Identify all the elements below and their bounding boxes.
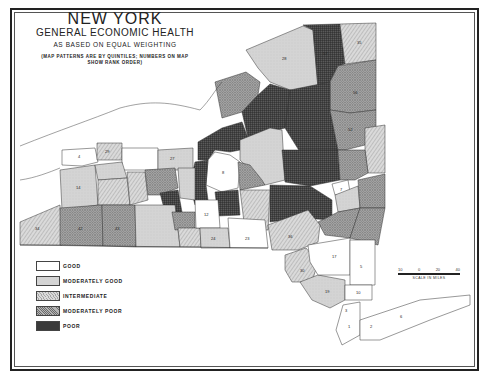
rank-label: 19 bbox=[325, 289, 330, 294]
swatch-good bbox=[36, 261, 60, 271]
county-wyoming[interactable] bbox=[98, 178, 130, 205]
county-essex[interactable] bbox=[330, 60, 376, 113]
scale-ticks: 10 0 20 40 bbox=[398, 267, 460, 272]
legend: GOOD MODERATELY GOOD INTERMEDIATE MODERA… bbox=[36, 258, 123, 333]
legend-label: POOR bbox=[63, 323, 80, 329]
county-long-island[interactable] bbox=[360, 295, 470, 340]
rank-label: 12 bbox=[204, 212, 209, 217]
legend-label: GOOD bbox=[63, 263, 81, 269]
legend-label: INTERMEDIATE bbox=[63, 293, 107, 299]
legend-label: MODERATELY GOOD bbox=[63, 278, 123, 284]
scale-tick: 20 bbox=[436, 267, 440, 272]
county-seneca[interactable] bbox=[178, 168, 195, 200]
lake-erie-shoreline bbox=[20, 168, 60, 180]
rank-label: 24 bbox=[211, 236, 216, 241]
county-fulton-montgomery[interactable] bbox=[282, 150, 340, 186]
county-niagara-orleans[interactable] bbox=[97, 143, 122, 160]
county-chemung[interactable] bbox=[172, 212, 195, 230]
title-block: NEW YORK GENERAL ECONOMIC HEALTH AS BASE… bbox=[0, 10, 230, 65]
legend-item-moderately-good: MODERATELY GOOD bbox=[36, 273, 123, 288]
title-note: (MAP PATTERNS ARE BY QUINTILES; NUMBERS … bbox=[0, 54, 230, 65]
rank-label: 23 bbox=[245, 236, 250, 241]
rank-label: 28 bbox=[282, 56, 287, 61]
rank-label: 29 bbox=[105, 149, 110, 154]
rank-label: 17 bbox=[332, 254, 337, 259]
swatch-poor bbox=[36, 321, 60, 331]
rank-label: 30 bbox=[300, 268, 305, 273]
scale-bar: 10 0 20 40 SCALE IN MILES bbox=[398, 267, 460, 280]
county-hamilton-herkimer[interactable] bbox=[285, 82, 338, 152]
county-genesee[interactable] bbox=[95, 162, 127, 180]
county-saratoga[interactable] bbox=[338, 150, 368, 180]
scale-line bbox=[398, 273, 460, 275]
scale-tick: 10 bbox=[398, 267, 402, 272]
rank-label: 27 bbox=[170, 156, 175, 161]
rank-label: 57 bbox=[323, 51, 328, 56]
swatch-intermediate bbox=[36, 291, 60, 301]
swatch-moderately-good bbox=[36, 276, 60, 286]
county-columbia[interactable] bbox=[358, 174, 385, 208]
rank-label: 14 bbox=[76, 185, 81, 190]
rank-label: 35 bbox=[357, 40, 362, 45]
rank-label: 56 bbox=[353, 90, 358, 95]
rank-label: 52 bbox=[348, 127, 353, 132]
county-rockland[interactable] bbox=[300, 275, 345, 308]
legend-label: MODERATELY POOR bbox=[63, 308, 122, 314]
legend-item-moderately-poor: MODERATELY POOR bbox=[36, 303, 123, 318]
county-delaware-south[interactable] bbox=[228, 218, 268, 248]
county-rensselaer-north[interactable] bbox=[365, 125, 385, 173]
rank-label: 36 bbox=[288, 234, 293, 239]
title-main: NEW YORK bbox=[0, 10, 230, 27]
title-weighting: AS BASED ON EQUAL WEIGHTING bbox=[0, 40, 230, 50]
rank-label: 34 bbox=[35, 226, 40, 231]
rank-label: 10 bbox=[356, 290, 361, 295]
county-livingston[interactable] bbox=[127, 172, 148, 205]
legend-item-good: GOOD bbox=[36, 258, 123, 273]
title-subtitle: GENERAL ECONOMIC HEALTH bbox=[0, 27, 230, 39]
scale-tick: 0 bbox=[418, 267, 420, 272]
scale-tick: 40 bbox=[456, 267, 460, 272]
swatch-moderately-poor bbox=[36, 306, 60, 316]
scale-label: SCALE IN MILES bbox=[398, 276, 460, 280]
rank-label: 43 bbox=[115, 226, 120, 231]
county-westchester[interactable] bbox=[350, 240, 375, 285]
county-steuben[interactable] bbox=[135, 205, 180, 247]
note-line-2: SHOW RANK ORDER) bbox=[0, 60, 230, 66]
lake-ontario-shoreline bbox=[20, 82, 222, 146]
rank-label: 42 bbox=[78, 226, 83, 231]
county-monroe-area[interactable] bbox=[122, 148, 158, 170]
legend-item-poor: POOR bbox=[36, 318, 123, 333]
county-chautauqua[interactable] bbox=[20, 205, 62, 245]
county-tioga[interactable] bbox=[178, 228, 201, 247]
county-wayne[interactable] bbox=[158, 148, 193, 170]
legend-item-intermediate: INTERMEDIATE bbox=[36, 288, 123, 303]
